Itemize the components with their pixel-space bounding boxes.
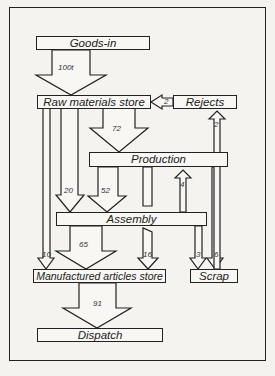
flow-arrows <box>0 0 275 376</box>
node-production: Production <box>89 152 228 167</box>
node-manufactured-articles-store: Manufactured articles store <box>33 269 166 283</box>
node-scrap: Scrap <box>190 269 238 283</box>
pipe-production-down <box>143 167 152 206</box>
flow-label-rejects-to-raw: 2 <box>164 97 168 106</box>
flow-label-to-scrap: 6 <box>214 250 218 259</box>
flow-label-assembly-to-manufactured: 65 <box>79 240 88 249</box>
node-rejects: Rejects <box>173 95 237 109</box>
node-label: Raw materials store <box>43 96 145 108</box>
flow-label-raw-to-manufactured: 10 <box>42 250 51 259</box>
node-goods-in: Goods-in <box>36 36 150 50</box>
arrow-raw-to-manufactured <box>38 108 54 269</box>
node-label: Dispatch <box>78 329 123 341</box>
flow-label-production-to-assembly: 52 <box>101 186 110 195</box>
arrow-goods-to-raw <box>36 50 106 95</box>
arrow-assembly-to-production <box>175 170 191 212</box>
node-label: Rejects <box>186 96 224 108</box>
node-label: Manufactured articles store <box>36 270 163 282</box>
flow-label-assembly-to-production: 4 <box>180 180 184 189</box>
node-dispatch: Dispatch <box>37 328 163 342</box>
arrow-raw-to-assembly <box>56 108 84 212</box>
node-label: Production <box>131 153 186 165</box>
flow-label-goods-to-raw: 100t <box>58 63 74 72</box>
flow-label-scrap-to-rejects: 2 <box>214 120 218 129</box>
arrow-to-manufactured-16 <box>138 228 158 269</box>
flow-label-assembly-to-scrap: 3 <box>196 250 200 259</box>
node-assembly: Assembly <box>56 212 207 226</box>
node-label: Scrap <box>199 270 229 282</box>
flow-label-production-to-manufactured: 16 <box>143 250 152 259</box>
flow-label-raw-to-production: 72 <box>112 124 121 133</box>
node-raw-materials-store: Raw materials store <box>37 95 151 109</box>
arrow-assembly-to-scrap <box>190 226 206 269</box>
node-label: Assembly <box>107 213 157 225</box>
flow-label-manufactured-to-dispatch: 91 <box>93 299 102 308</box>
arrow-rejects-to-raw <box>151 95 173 109</box>
node-label: Goods-in <box>70 37 117 49</box>
flow-label-raw-to-assembly: 20 <box>64 186 73 195</box>
